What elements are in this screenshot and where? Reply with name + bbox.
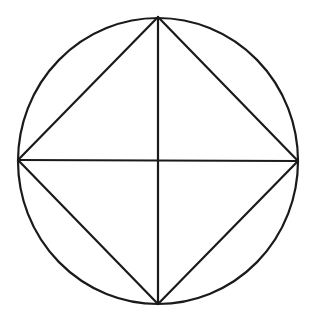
square-edge-right-bottom (158, 161, 298, 304)
square-edge-bottom-left (18, 160, 158, 304)
square-edge-top-right (158, 17, 298, 161)
geometry-diagram (0, 0, 316, 322)
square-edge-left-top (18, 17, 158, 160)
horizontal-diameter (18, 160, 298, 161)
